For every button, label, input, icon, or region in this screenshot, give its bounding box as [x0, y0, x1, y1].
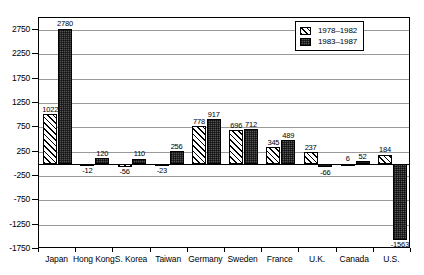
bar-japan-series-0: [43, 114, 57, 164]
gridline: [39, 103, 409, 104]
gridline: [39, 225, 409, 226]
gridline: [39, 79, 409, 80]
x-axis-tick-mark: [38, 248, 39, 252]
legend-label-1978-1982: 1978–1982: [318, 26, 357, 35]
bar-u-k--series-0: [304, 152, 318, 164]
bar-value-label: 6: [346, 154, 350, 163]
x-axis-label-u-s-: U.S.: [383, 254, 399, 264]
chart-figure: 2750225017501250750250-250-750-1250-1750…: [0, 0, 424, 275]
bar-u-s--series-1: [393, 164, 407, 240]
x-axis-tick-mark: [336, 248, 337, 252]
x-axis-tick-mark: [261, 248, 262, 252]
bar-value-label: -1563: [391, 240, 409, 249]
x-axis-label-taiwan: Taiwan: [155, 254, 181, 264]
bar-value-label: 184: [379, 145, 391, 154]
x-axis-label-germany: Germany: [188, 254, 222, 264]
bar-value-label: 52: [359, 152, 367, 161]
bar-value-label: 489: [282, 131, 294, 140]
x-axis-label-france: France: [267, 254, 293, 264]
x-axis-label-japan: Japan: [45, 254, 68, 264]
x-axis-tick-mark: [150, 248, 151, 252]
x-axis-tick-mark: [187, 248, 188, 252]
gridline: [39, 200, 409, 201]
bar-value-label: -12: [82, 166, 92, 175]
bar-value-label: 345: [267, 138, 279, 147]
x-axis-label-sweden: Sweden: [228, 254, 258, 264]
bar-taiwan-series-1: [170, 151, 184, 163]
bar-value-label: 120: [96, 149, 108, 158]
bar-value-label: 110: [134, 149, 145, 158]
legend-item-0: 1978–1982: [300, 25, 357, 36]
x-axis-label-hong-kong: Hong Kong: [73, 254, 115, 264]
zero-axis-line: [39, 164, 409, 165]
gridline: [39, 176, 409, 177]
y-axis-tick-label: -1250: [0, 219, 30, 229]
y-axis-tick-label: 1250: [0, 97, 30, 107]
bar-value-label: 1022: [42, 105, 58, 114]
bar-u-s--series-0: [378, 155, 392, 164]
bar-value-label: 2780: [57, 19, 73, 28]
y-axis-tick-label: -1750: [0, 243, 30, 253]
legend-swatch-icon-1978-1982: [300, 27, 311, 35]
bar-value-label: 712: [245, 120, 257, 129]
bar-value-label: 696: [230, 121, 242, 130]
x-axis-tick-mark: [112, 248, 113, 252]
bar-value-label: -23: [157, 166, 167, 175]
bar-sweden-series-0: [229, 130, 243, 164]
y-axis-tick-label: -250: [0, 170, 30, 180]
y-axis-tick-label: 750: [0, 121, 30, 131]
plot-area: 10222780-12120-56110-2325677891769671234…: [38, 17, 410, 248]
bar-sweden-series-1: [244, 129, 258, 164]
y-axis-tick-label: -750: [0, 194, 30, 204]
y-axis-tick-label: 2250: [0, 48, 30, 58]
bar-value-label: -66: [320, 168, 330, 177]
bar-japan-series-1: [58, 29, 72, 164]
x-axis-tick-mark: [224, 248, 225, 252]
bar-value-label: 778: [193, 117, 205, 126]
x-axis-tick-mark: [298, 248, 299, 252]
x-axis-tick-mark: [410, 248, 411, 252]
bar-germany-series-1: [207, 119, 221, 164]
gridline: [39, 127, 409, 128]
bar-value-label: 237: [305, 143, 317, 152]
x-axis-label-canada: Canada: [340, 254, 369, 264]
bar-france-series-0: [266, 147, 280, 164]
legend-swatch-icon-1983-1987: [300, 38, 311, 46]
x-axis-tick-mark: [373, 248, 374, 252]
gridline: [39, 54, 409, 55]
bar-germany-series-0: [192, 126, 206, 164]
legend-item-1: 1983–1987: [300, 36, 357, 47]
bar-value-label: -56: [119, 167, 129, 176]
legend: 1978–1982 1983–1987: [295, 21, 364, 51]
legend-label-1983-1987: 1983–1987: [318, 37, 357, 46]
gridline: [39, 152, 409, 153]
x-axis-label-s-korea: S. Korea: [115, 254, 147, 264]
y-axis-tick-label: 250: [0, 146, 30, 156]
y-axis-tick-label: 1750: [0, 73, 30, 83]
bar-value-label: 256: [171, 142, 183, 151]
x-axis-label-u-k-: U.K.: [309, 254, 325, 264]
bar-france-series-1: [281, 140, 295, 164]
bar-value-label: 917: [208, 110, 220, 119]
x-axis-tick-mark: [75, 248, 76, 252]
y-axis-tick-label: 2750: [0, 24, 30, 34]
